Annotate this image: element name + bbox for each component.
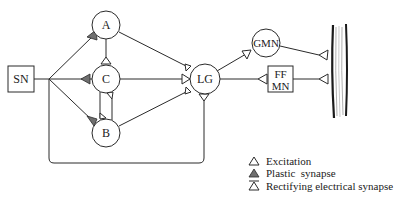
node-gmn: GMN xyxy=(252,29,280,57)
wire-lg-gmn xyxy=(217,54,246,71)
wire-bottom-loop xyxy=(49,79,204,163)
excitation-synapse-muscle-gmn-icon xyxy=(319,50,328,60)
node-ffmn-label-line2: MN xyxy=(272,80,290,92)
neural-circuit-diagram: SN A C B LG GMN FF MN Excitation xyxy=(0,0,415,205)
wire-a-lg xyxy=(119,32,186,66)
node-sn-label: SN xyxy=(13,72,29,86)
excitation-synapse-ffmn-icon xyxy=(258,74,267,84)
legend-label-rectifying: Rectifying electrical synapse xyxy=(266,180,393,192)
node-gmn-label: GMN xyxy=(253,37,279,49)
legend-item-rectifying: Rectifying electrical synapse xyxy=(249,180,393,192)
muscle-fiber xyxy=(332,24,347,118)
wire-gmn-muscle xyxy=(280,46,319,55)
rectifying-synapse-c-lg-icon xyxy=(182,74,190,84)
excitation-synapse-gmn-icon xyxy=(242,50,251,59)
node-c-label: C xyxy=(102,72,110,86)
filled-triangle-icon xyxy=(249,169,259,177)
node-b: B xyxy=(92,119,120,147)
node-c: C xyxy=(92,65,120,93)
open-triangle-icon xyxy=(249,157,259,165)
rectifying-synapse-a-lg-icon xyxy=(185,64,191,71)
node-a-label: A xyxy=(102,18,111,32)
rectifying-synapse-a-c-icon xyxy=(101,57,111,64)
node-lg: LG xyxy=(190,64,220,94)
barred-triangle-icon xyxy=(249,182,259,190)
legend-label-excitation: Excitation xyxy=(266,155,312,167)
wire-junction-b xyxy=(49,79,94,122)
wire-junction-a xyxy=(49,35,94,79)
excitation-synapse-muscle-ffmn-icon xyxy=(319,74,328,84)
legend-item-plastic: Plastic synapse xyxy=(249,167,336,179)
rectifying-synapse-b-lg-icon xyxy=(185,87,191,94)
wire-b-lg xyxy=(119,92,186,126)
node-ffmn-label-line1: FF xyxy=(274,68,286,80)
node-lg-label: LG xyxy=(197,72,213,86)
legend-label-plastic: Plastic synapse xyxy=(266,167,336,179)
rectifying-synapse-c-b-icon xyxy=(100,113,106,119)
plastic-synapse-c-icon xyxy=(81,74,90,84)
legend-item-excitation: Excitation xyxy=(249,155,312,167)
rectifying-synapse-sn-lg-icon xyxy=(199,94,209,101)
node-ffmn: FF MN xyxy=(268,66,293,92)
legend: Excitation Plastic synapse Rectifying el… xyxy=(249,155,393,192)
node-b-label: B xyxy=(102,126,110,140)
node-a: A xyxy=(92,11,120,39)
node-sn: SN xyxy=(8,66,34,92)
